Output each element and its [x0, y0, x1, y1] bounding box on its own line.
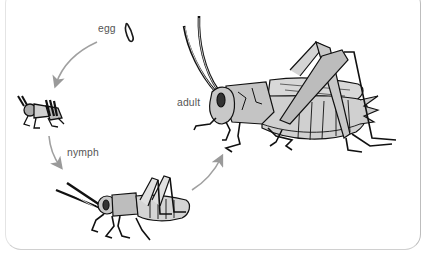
nymph-label: nymph [67, 146, 99, 158]
arrow-nymph-to-adult [192, 158, 221, 190]
adult-grasshopper-icon [184, 16, 396, 152]
arrow-egg-to-hatchling [56, 42, 97, 84]
egg-icon [125, 24, 133, 42]
egg-label: egg [98, 22, 116, 34]
adult-label: adult [177, 96, 200, 108]
hatchling-grasshopper-icon [18, 96, 64, 128]
arrow-hatchling-to-nymph [49, 136, 60, 166]
nymph-grasshopper-icon [56, 176, 189, 240]
life-cycle-diagram [0, 0, 429, 258]
